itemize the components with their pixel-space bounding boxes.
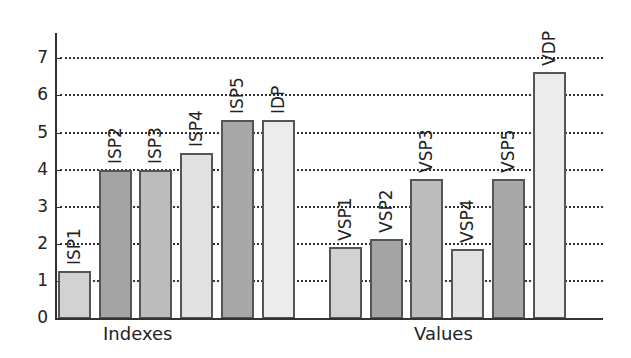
bar-vsp4 [451,249,484,319]
y-axis [55,33,57,319]
grouped-bar-chart: 01234567ISP1ISP2ISP3ISP4ISP5IDPIndexesVS… [0,0,631,358]
bar-label: VSP2 [376,189,396,233]
bar-vsp3 [410,179,443,319]
y-tick-label: 4 [18,159,48,179]
x-axis [55,318,603,320]
gridline [60,132,603,134]
bar-isp2 [99,170,132,319]
bar-label: ISP5 [227,77,247,114]
y-tick-label: 5 [18,122,48,142]
bar-vsp2 [370,239,403,319]
gridline [60,94,603,96]
x-group-label: Indexes [103,323,172,344]
bar-label: ISP2 [105,127,125,164]
y-tick-label: 3 [18,196,48,216]
bar-label: ISP3 [145,127,165,164]
bar-isp1 [58,271,91,319]
gridline [60,57,603,59]
x-group-label: Values [414,323,473,344]
bar-isp5 [221,120,254,319]
bar-label: ISP4 [186,110,206,147]
bar-label: VSP3 [416,129,436,173]
y-tick-label: 2 [18,233,48,253]
y-tick-label: 7 [18,47,48,67]
bar-label: VSP5 [498,129,518,173]
bar-label: VSP1 [335,197,355,241]
bar-label: ISP1 [64,228,84,265]
bar-vsp5 [492,179,525,319]
y-tick-label: 6 [18,84,48,104]
bar-vsp1 [329,247,362,319]
y-tick-label: 0 [18,307,48,327]
bar-label: IDP [268,86,288,114]
y-tick-label: 1 [18,270,48,290]
bar-vdp [533,72,566,319]
bar-label: VSP4 [457,200,477,244]
bar-isp3 [139,170,172,319]
bar-label: VDP [539,31,559,66]
bar-idp [262,120,295,319]
bar-isp4 [180,153,213,319]
